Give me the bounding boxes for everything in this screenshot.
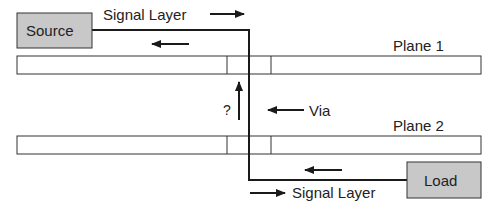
via-return-path-diagram: Source Load Signal Layer Signal Layer Pl…	[0, 0, 499, 216]
signal-layer-bottom-label: Signal Layer	[292, 184, 375, 201]
plane-1-label: Plane 1	[393, 37, 444, 54]
signal-layer-top-label: Signal Layer	[103, 6, 186, 23]
signal-trace	[92, 30, 407, 180]
source-label: Source	[26, 22, 74, 39]
via-label: Via	[309, 102, 331, 119]
load-label: Load	[424, 172, 457, 189]
question-mark-label: ?	[223, 102, 231, 118]
plane-2-label: Plane 2	[393, 117, 444, 134]
